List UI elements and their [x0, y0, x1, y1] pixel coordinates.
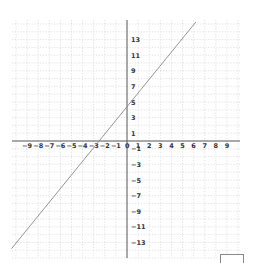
x-tick-label: 6	[191, 142, 196, 150]
x-tick-label: −7	[44, 142, 54, 150]
x-tick-label: −2	[100, 142, 110, 150]
x-tick-label: −6	[55, 142, 65, 150]
x-tick-label: 4	[169, 142, 174, 150]
y-tick-label: −9	[131, 208, 141, 216]
x-tick-label: 0	[125, 142, 130, 150]
y-tick-label: −11	[131, 223, 146, 231]
y-tick-label: 13	[131, 36, 140, 44]
x-axis-tick-labels: −9−8−7−6−5−4−3−2−10123456789	[22, 142, 230, 150]
y-tick-label: −5	[131, 177, 141, 185]
data-line	[12, 22, 196, 249]
x-tick-label: −4	[78, 142, 88, 150]
x-tick-label: 8	[214, 142, 219, 150]
x-tick-label: 9	[225, 142, 230, 150]
x-tick-label: 5	[180, 142, 185, 150]
x-tick-label: 7	[202, 142, 207, 150]
y-tick-label: 3	[131, 114, 136, 122]
y-tick-label: 11	[131, 52, 141, 60]
coordinate-plane: −9−8−7−6−5−4−3−2−10123456789 131197531−1…	[0, 0, 254, 263]
x-tick-label: −1	[111, 142, 121, 150]
series-line	[12, 22, 196, 249]
x-tick-label: −8	[33, 142, 43, 150]
y-tick-label: −13	[131, 239, 146, 247]
x-tick-label: 2	[147, 142, 152, 150]
y-tick-label: −7	[131, 192, 141, 200]
x-tick-label: 3	[158, 142, 163, 150]
y-tick-label: 1	[131, 130, 136, 138]
y-tick-label: −1	[131, 145, 141, 153]
y-tick-label: 5	[131, 99, 136, 107]
grid-lines	[12, 20, 240, 258]
y-tick-label: 9	[131, 67, 136, 75]
y-tick-label: −3	[131, 161, 141, 169]
axes	[12, 20, 240, 258]
x-tick-label: −9	[22, 142, 32, 150]
footer-box[interactable]	[220, 254, 244, 263]
y-tick-label: 7	[131, 83, 136, 91]
x-tick-label: −5	[67, 142, 77, 150]
